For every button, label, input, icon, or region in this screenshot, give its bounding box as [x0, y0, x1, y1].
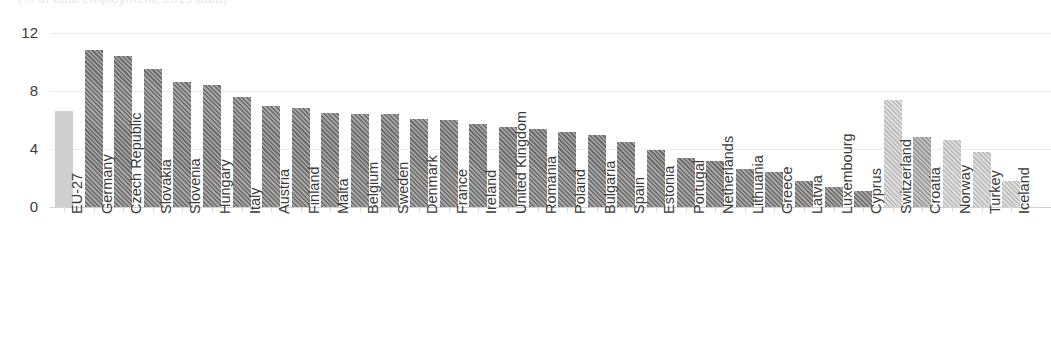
tickmark — [64, 207, 65, 212]
x-axis-label: Germany — [100, 154, 115, 214]
gridline-8 — [50, 91, 1051, 92]
tickmark — [774, 207, 775, 212]
x-axis-label: France — [455, 169, 470, 214]
tickmark — [1011, 207, 1012, 212]
tickmark — [715, 207, 716, 212]
x-axis-label: United Kingdom — [514, 111, 529, 214]
x-axis-label: Hungary — [218, 159, 233, 214]
tickmark — [212, 207, 213, 212]
tickmark — [597, 207, 598, 212]
tickmark — [330, 207, 331, 212]
x-axis-label: Spain — [632, 177, 647, 214]
x-axis-label: Malta — [336, 179, 351, 214]
x-axis-label: Romania — [544, 156, 559, 214]
tickmark — [478, 207, 479, 212]
bar-chart: (% of total employment, 2019 data) 04812… — [0, 0, 1051, 362]
tickmark — [449, 207, 450, 212]
tickmark — [686, 207, 687, 212]
tickmark — [745, 207, 746, 212]
tickmark — [922, 207, 923, 212]
tickmark — [123, 207, 124, 212]
x-axis-label: Iceland — [1017, 167, 1032, 214]
x-axis-label: Estonia — [662, 166, 677, 214]
x-axis-label: Netherlands — [721, 136, 736, 214]
x-axis-label: Finland — [307, 166, 322, 214]
tickmark — [242, 207, 243, 212]
x-axis-label: Denmark — [425, 155, 440, 214]
chart-title-cutoff: (% of total employment, 2019 data) — [18, 0, 227, 6]
y-axis-label-12: 12 — [4, 25, 38, 40]
x-axis-label: Ireland — [484, 170, 499, 214]
x-axis-label: Greece — [780, 166, 795, 214]
x-axis-label: Bulgaria — [603, 161, 618, 214]
x-axis-label: Switzerland — [899, 139, 914, 214]
x-axis-label: Portugal — [692, 160, 707, 214]
x-axis-label: Poland — [573, 169, 588, 214]
tickmark — [508, 207, 509, 212]
tickmark — [301, 207, 302, 212]
tickmark — [804, 207, 805, 212]
x-axis-label: Latvia — [810, 175, 825, 214]
tickmark — [626, 207, 627, 212]
y-axis-label-4: 4 — [4, 141, 38, 156]
tickmark — [982, 207, 983, 212]
x-axis-label: Norway — [958, 165, 973, 214]
x-axis-label: Austria — [277, 169, 292, 214]
x-axis-label: Italy — [248, 187, 263, 214]
tickmark — [94, 207, 95, 212]
tickmark — [952, 207, 953, 212]
y-axis-label-8: 8 — [4, 83, 38, 98]
tickmark — [538, 207, 539, 212]
tickmark — [360, 207, 361, 212]
x-axis-label: Turkey — [988, 170, 1003, 214]
tickmark — [656, 207, 657, 212]
x-axis-label: EU-27 — [70, 173, 85, 214]
tickmark — [182, 207, 183, 212]
gridline-12 — [50, 33, 1051, 34]
tickmark — [419, 207, 420, 212]
x-axis-label: Luxembourg — [840, 133, 855, 214]
tickmark — [567, 207, 568, 212]
y-axis-label-0: 0 — [4, 199, 38, 214]
tickmark — [863, 207, 864, 212]
x-axis-label: Slovakia — [159, 159, 174, 214]
x-axis-label: Czech Republic — [129, 112, 144, 214]
tickmark — [153, 207, 154, 212]
x-axis-label: Slovenia — [188, 158, 203, 214]
x-axis-label: Croatia — [928, 167, 943, 214]
tickmark — [390, 207, 391, 212]
x-axis-label: Lithuania — [751, 155, 766, 214]
x-axis-label: Belgium — [366, 162, 381, 214]
x-axis-label: Cyprus — [869, 168, 884, 214]
tickmark — [271, 207, 272, 212]
tickmark — [834, 207, 835, 212]
x-axis-label: Sweden — [396, 162, 411, 214]
tickmark — [893, 207, 894, 212]
